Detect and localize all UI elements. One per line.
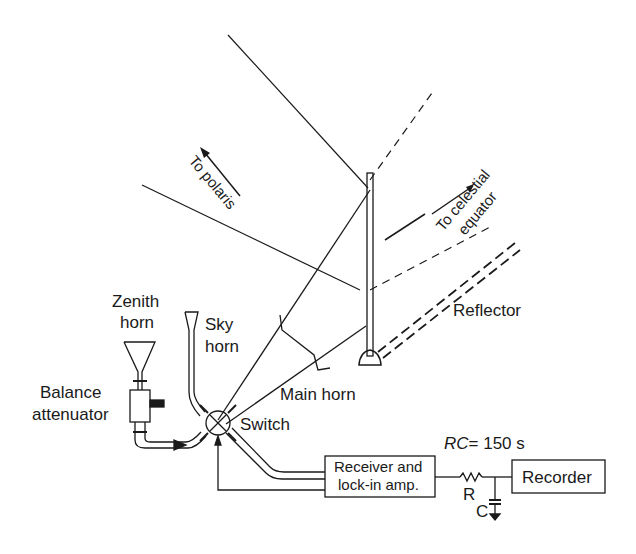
control-line: [215, 436, 325, 490]
rc-symbol: RC: [444, 434, 469, 453]
label-resistor: R: [463, 485, 475, 504]
label-reflector: Reflector: [453, 301, 521, 320]
receiver-box[interactable]: Receiver and lock-in amp.: [325, 456, 435, 497]
attenuator-knob: [150, 400, 164, 407]
balance-attenuator: [130, 390, 206, 450]
recorder-box[interactable]: Recorder: [512, 460, 605, 493]
label-sky-horn-1: Sky: [205, 315, 234, 334]
ground-icon: [490, 514, 500, 520]
label-rc-value: RC= 150 s: [444, 434, 525, 453]
upper-beam-line: [228, 35, 368, 188]
label-recorder: Recorder: [522, 468, 592, 487]
label-switch: Switch: [240, 415, 290, 434]
label-main-horn: Main horn: [280, 385, 356, 404]
main-horn-mouth: [280, 315, 330, 370]
zenith-horn-cone: [124, 342, 155, 390]
attenuator-waveguide-inner: [145, 422, 201, 442]
label-zenith-horn-2: horn: [120, 313, 154, 332]
label-to-polaris: To polaris: [186, 152, 240, 212]
pole-base: [359, 350, 381, 365]
radiometer-diagram: To polaris To celestial equator Reflecto…: [0, 0, 636, 554]
control-arrow-icon: [215, 436, 221, 445]
label-receiver-1: Receiver and: [334, 458, 422, 475]
sky-horn: [185, 312, 205, 416]
lower-beam-line: [142, 185, 360, 290]
rc-time-constant: = 150 s: [469, 434, 525, 453]
label-receiver-2: lock-in amp.: [338, 476, 419, 493]
label-sky-horn-2: horn: [205, 337, 239, 356]
resistor-icon: [460, 473, 482, 481]
sky-horn-left-wall: [185, 312, 200, 416]
equator-beam-dashed: [370, 226, 492, 290]
label-balance-2: attenuator: [32, 405, 109, 424]
reflected-beam-dashed: [370, 93, 432, 180]
label-balance-1: Balance: [40, 383, 101, 402]
waveguide-to-receiver: [226, 428, 325, 479]
attenuator-body: [130, 390, 150, 422]
zenith-horn: [124, 342, 155, 390]
label-capacitor: C: [476, 502, 488, 521]
label-zenith-horn-1: Zenith: [112, 292, 159, 311]
